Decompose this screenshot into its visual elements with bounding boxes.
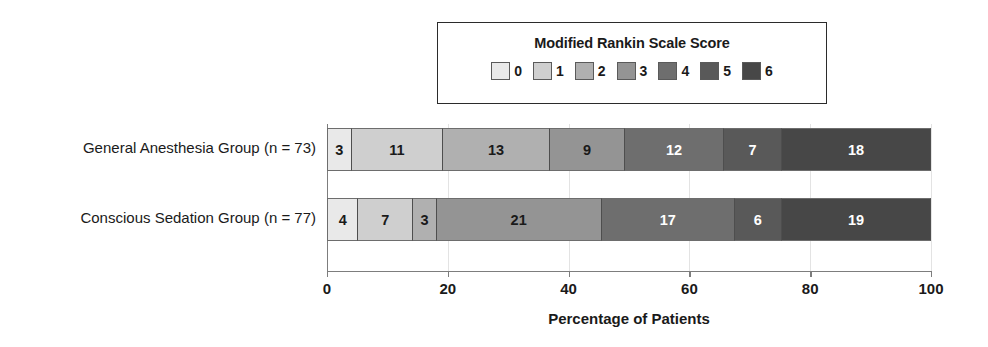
- x-tick-label: 0: [323, 280, 331, 297]
- x-tick-label: 80: [802, 280, 819, 297]
- gridline: [931, 124, 932, 272]
- legend-item-label: 5: [723, 63, 731, 79]
- bar-segment[interactable]: 7: [724, 128, 782, 171]
- bar-segment[interactable]: 21: [437, 198, 602, 241]
- chart-legend: Modified Rankin Scale Score 0123456: [437, 22, 827, 104]
- category-label-general-anesthesia: General Anesthesia Group (n = 73): [83, 139, 316, 156]
- bar-segment[interactable]: 13: [443, 128, 551, 171]
- legend-item[interactable]: 2: [575, 62, 606, 80]
- bar-segment[interactable]: 7: [358, 198, 413, 241]
- bar-segment[interactable]: 12: [625, 128, 724, 171]
- legend-item[interactable]: 1: [533, 62, 564, 80]
- stacked-bar-chart-figure: Modified Rankin Scale Score 0123456 Gene…: [0, 0, 988, 347]
- legend-item[interactable]: 4: [658, 62, 689, 80]
- legend-swatch-icon: [617, 62, 636, 80]
- legend-item[interactable]: 0: [491, 62, 522, 80]
- bar-row: 31113912718: [327, 128, 931, 171]
- plot-area: 311139127184732117619 020406080100: [327, 124, 931, 272]
- bar-segment[interactable]: 18: [782, 128, 931, 171]
- bar-segment[interactable]: 6: [735, 198, 782, 241]
- legend-item-label: 0: [514, 63, 522, 79]
- bar-row: 4732117619: [327, 198, 931, 241]
- legend-item[interactable]: 6: [742, 62, 773, 80]
- legend-item-label: 2: [598, 63, 606, 79]
- legend-items: 0123456: [438, 62, 826, 80]
- bar-segment[interactable]: 4: [327, 198, 358, 241]
- bar-segment[interactable]: 3: [327, 128, 352, 171]
- x-tick-label: 60: [681, 280, 698, 297]
- x-axis-title: Percentage of Patients: [327, 310, 931, 327]
- x-axis-line: [327, 271, 931, 272]
- legend-item[interactable]: 3: [617, 62, 648, 80]
- legend-swatch-icon: [575, 62, 594, 80]
- x-tick-mark: [810, 271, 811, 277]
- legend-swatch-icon: [700, 62, 719, 80]
- bar-segment[interactable]: 9: [550, 128, 624, 171]
- x-tick-label: 20: [439, 280, 456, 297]
- legend-item-label: 1: [556, 63, 564, 79]
- legend-swatch-icon: [491, 62, 510, 80]
- x-tick-label: 100: [918, 280, 943, 297]
- legend-swatch-icon: [658, 62, 677, 80]
- legend-title: Modified Rankin Scale Score: [438, 35, 826, 51]
- legend-item[interactable]: 5: [700, 62, 731, 80]
- legend-swatch-icon: [742, 62, 761, 80]
- legend-item-label: 3: [640, 63, 648, 79]
- legend-item-label: 6: [765, 63, 773, 79]
- bar-segment[interactable]: 17: [602, 198, 735, 241]
- x-tick-mark: [931, 271, 932, 277]
- legend-item-label: 4: [681, 63, 689, 79]
- bar-segment[interactable]: 3: [413, 198, 437, 241]
- bar-segment[interactable]: 11: [352, 128, 443, 171]
- legend-swatch-icon: [533, 62, 552, 80]
- x-tick-label: 40: [560, 280, 577, 297]
- x-tick-mark: [689, 271, 690, 277]
- x-tick-mark: [327, 271, 328, 277]
- bar-segment[interactable]: 19: [782, 198, 931, 241]
- x-tick-mark: [569, 271, 570, 277]
- x-tick-mark: [448, 271, 449, 277]
- category-label-conscious-sedation: Conscious Sedation Group (n = 77): [80, 209, 316, 226]
